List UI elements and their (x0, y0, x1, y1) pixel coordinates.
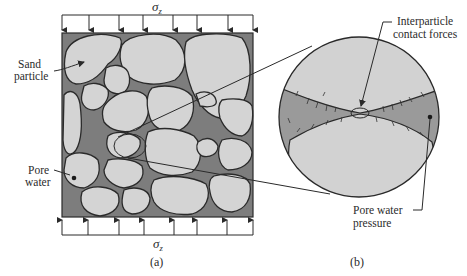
contact-forces-label-1: Interparticle (397, 15, 453, 28)
top-load-arrows (62, 15, 253, 30)
pore-pressure-label-2: pressure (353, 217, 391, 230)
bottom-load-arrows (62, 220, 253, 235)
caption-b: (b) (350, 255, 364, 269)
soil-stress-diagram: σz (0, 0, 467, 276)
pore-pressure-label-1: Pore water (353, 204, 403, 216)
pore-water-dot (72, 176, 77, 181)
panel-b: Interparticle contact forces Pore water … (270, 15, 458, 269)
top-sigma-z-label: σz (152, 0, 162, 16)
caption-a: (a) (150, 255, 163, 269)
pore-water-label-2: water (25, 176, 51, 188)
pore-water-label-1: Pore (28, 164, 49, 176)
sand-particle-label-1: Sand (18, 58, 41, 70)
pore-pressure-dot (428, 115, 433, 120)
bottom-sigma-z-label: σz (153, 236, 163, 253)
contact-forces-label-2: contact forces (393, 28, 458, 40)
sand-particle-label-2: particle (14, 70, 48, 83)
